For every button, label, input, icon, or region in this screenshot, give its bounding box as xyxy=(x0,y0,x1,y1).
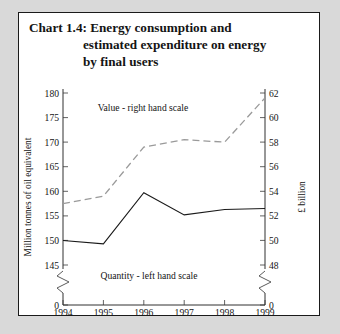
x-tick-label: 1996 xyxy=(134,307,153,315)
chart-title-line-1: Chart 1.4: Energy consumption and xyxy=(29,19,313,36)
series-line-quantity xyxy=(63,193,265,244)
right-tick-label: 62 xyxy=(269,88,279,99)
left-tick-label: 180 xyxy=(45,88,60,99)
chart-svg: 180 175 170 165 160 155 150 145 0 xyxy=(19,83,319,315)
x-tick-label: 1999 xyxy=(255,307,274,315)
right-tick-label: 58 xyxy=(269,137,279,148)
x-tick-label: 1998 xyxy=(215,307,234,315)
left-tick-label: 150 xyxy=(45,235,60,246)
right-tick-label: 50 xyxy=(269,235,279,246)
left-tick-label: 145 xyxy=(45,260,60,271)
right-tick-label: 48 xyxy=(269,260,279,271)
chart-frame: Chart 1.4: Energy consumption and estima… xyxy=(18,12,320,316)
series-line-value xyxy=(63,98,265,204)
x-tick-label: 1994 xyxy=(53,307,72,315)
right-axis-break-icon xyxy=(259,271,271,293)
x-axis-tick-labels: 1994 1995 1996 1997 1998 1999 xyxy=(53,307,274,315)
chart-title: Chart 1.4: Energy consumption and estima… xyxy=(29,19,313,70)
right-tick-label: 60 xyxy=(269,112,279,123)
right-tick-label: 52 xyxy=(269,210,279,221)
right-axis-tick-labels: 62 60 58 56 54 52 50 48 0 xyxy=(269,88,279,311)
left-axis-ticks xyxy=(63,93,68,305)
left-axis-tick-labels: 180 175 170 165 160 155 150 145 0 xyxy=(45,88,60,311)
left-axis-break-icon xyxy=(57,271,69,293)
right-tick-label: 56 xyxy=(269,161,279,172)
left-axis-title: Million tonnes of oil equivalent xyxy=(23,137,33,256)
series-label-quantity: Quantity - left hand scale xyxy=(101,270,198,281)
left-tick-label: 175 xyxy=(45,112,60,123)
left-tick-label: 165 xyxy=(45,161,60,172)
right-axis-title: £ billion xyxy=(297,181,307,213)
x-tick-label: 1997 xyxy=(175,307,194,315)
x-axis-ticks xyxy=(63,300,265,305)
right-tick-label: 54 xyxy=(269,186,279,197)
chart-title-line-2: estimated expenditure on energy xyxy=(29,36,313,53)
left-tick-label: 170 xyxy=(45,137,60,148)
chart-title-line-3: by final users xyxy=(29,53,313,70)
left-tick-label: 155 xyxy=(45,210,60,221)
x-tick-label: 1995 xyxy=(94,307,113,315)
left-tick-label: 160 xyxy=(45,186,60,197)
plot-area: 180 175 170 165 160 155 150 145 0 xyxy=(19,83,319,315)
series-label-value: Value - right hand scale xyxy=(98,102,189,113)
